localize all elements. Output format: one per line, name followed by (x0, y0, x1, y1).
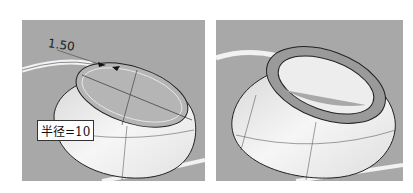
radius-callout: 半径=10 (37, 120, 94, 141)
left-viewport: 1.50 半径=10 (22, 20, 205, 181)
right-model-render (216, 20, 403, 181)
right-viewport (216, 20, 403, 181)
